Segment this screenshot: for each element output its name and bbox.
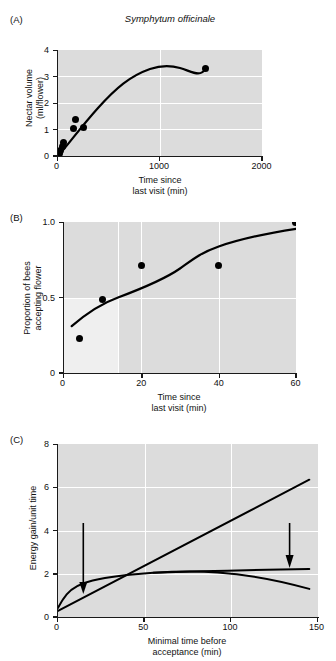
panel-c-curves-svg bbox=[58, 444, 318, 617]
nectar-accumulation-curve bbox=[58, 66, 206, 156]
ticklabel-b-x0: 0 bbox=[48, 378, 78, 388]
panel-b-ylabel-line2: accepting flower bbox=[33, 228, 44, 368]
panel-b-ylabel-line1: Proportion of bees bbox=[22, 228, 33, 368]
panel-c-x-axis bbox=[57, 617, 319, 618]
panel-b-plot-area bbox=[64, 222, 296, 373]
ticklabel-c-x150: 150 bbox=[302, 622, 332, 632]
ticklabel-b-y0: 0 bbox=[32, 368, 55, 378]
panel-a-ylabel-line1: Nectar volume bbox=[24, 43, 35, 153]
ticklabel-b-y10: 1.0 bbox=[32, 217, 55, 227]
tick-b-y05 bbox=[59, 297, 63, 298]
panel-b-letter: (B) bbox=[10, 212, 23, 223]
ticklabel-c-x50: 50 bbox=[128, 622, 158, 632]
panel-c-ylabel: Energy gain/unit time bbox=[28, 453, 39, 603]
panel-b-xlabel-line2: last visit (min) bbox=[124, 403, 234, 414]
ticklabel-a-x1000: 1000 bbox=[139, 161, 179, 171]
tick-a-y4 bbox=[53, 50, 57, 51]
tick-c-y6 bbox=[53, 487, 57, 488]
tick-b-y10 bbox=[59, 222, 63, 223]
right-arrow-annotation bbox=[286, 523, 294, 568]
tick-a-y1 bbox=[53, 129, 57, 130]
ticklabel-a-x2000: 2000 bbox=[241, 161, 281, 171]
saturating-curve bbox=[58, 572, 309, 608]
ticklabel-c-y8: 8 bbox=[32, 439, 49, 449]
panel-b-x-axis bbox=[63, 373, 297, 374]
panel-a-ylabel-line2: (ml/flower) bbox=[35, 43, 46, 153]
tick-c-y8 bbox=[53, 444, 57, 445]
panel-a-xlabel-line2: last visit (min) bbox=[105, 186, 215, 197]
panel-a-plot-area bbox=[58, 50, 262, 156]
panel-b-xlabel-line1: Time since bbox=[124, 392, 234, 403]
ticklabel-b-x20: 20 bbox=[126, 378, 156, 388]
panel-b-y-axis bbox=[63, 222, 64, 374]
data-point bbox=[99, 296, 106, 303]
scientific-figure: (A) Symphytum officinale bbox=[0, 0, 336, 661]
acceptance-function-curve bbox=[72, 229, 296, 326]
rising-linear-curve bbox=[58, 480, 309, 611]
panel-c-plot-area bbox=[58, 444, 318, 617]
panel-c-y-axis bbox=[57, 444, 58, 618]
tick-c-y2 bbox=[53, 573, 57, 574]
panel-c-letter: (C) bbox=[10, 434, 23, 445]
ticklabel-c-x0: 0 bbox=[42, 622, 72, 632]
panel-a-letter: (A) bbox=[10, 14, 23, 25]
tick-c-y4 bbox=[53, 530, 57, 531]
ticklabel-b-x40: 40 bbox=[204, 378, 234, 388]
panel-c-xlabel-line1: Minimal time before bbox=[132, 636, 242, 647]
ticklabel-b-x60: 60 bbox=[280, 378, 310, 388]
panel-a-xlabel-line1: Time since bbox=[105, 175, 215, 186]
panel-a-curve-svg bbox=[58, 50, 262, 156]
ticklabel-a-x0: 0 bbox=[42, 161, 72, 171]
ticklabel-c-y0: 0 bbox=[32, 612, 49, 622]
tick-a-y3 bbox=[53, 76, 57, 77]
data-point bbox=[80, 124, 87, 131]
panel-c-xlabel-line2: acceptance (min) bbox=[132, 647, 242, 658]
tick-a-y2 bbox=[53, 103, 57, 104]
panel-a-y-axis bbox=[57, 50, 58, 157]
data-point bbox=[76, 335, 83, 342]
ticklabel-c-x100: 100 bbox=[215, 622, 245, 632]
data-point bbox=[70, 125, 77, 132]
left-arrow-annotation bbox=[79, 523, 87, 594]
panel-a-title: Symphytum officinale bbox=[80, 13, 260, 24]
